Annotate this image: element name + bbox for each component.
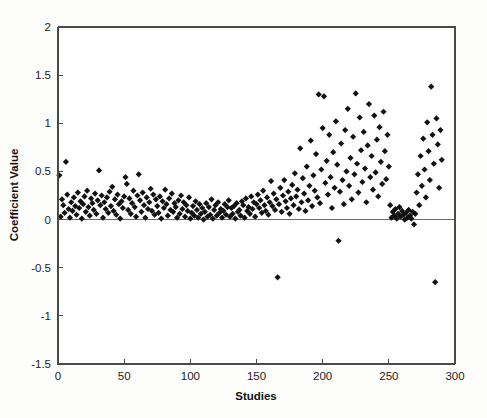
plot-canvas: 050100150200250300 -1.5-1-0.500.511.52 S… bbox=[0, 0, 487, 418]
y-tick-label: -0.5 bbox=[31, 262, 51, 274]
x-tick-label: 200 bbox=[313, 370, 332, 382]
x-tick-label: 250 bbox=[379, 370, 398, 382]
y-tick-label: 1 bbox=[45, 117, 51, 129]
y-tick-label: 0.5 bbox=[35, 165, 51, 177]
x-axis-title: Studies bbox=[235, 390, 277, 402]
y-tick-label: 1.5 bbox=[35, 69, 51, 81]
x-tick-label: 0 bbox=[55, 370, 61, 382]
y-tick-label: -1.5 bbox=[31, 358, 51, 370]
x-tick-label: 50 bbox=[118, 370, 131, 382]
x-tick-label: 100 bbox=[181, 370, 200, 382]
y-tick-label: 2 bbox=[45, 21, 51, 33]
y-tick-label: 0 bbox=[45, 214, 51, 226]
x-tick-label: 300 bbox=[445, 370, 464, 382]
scatter-chart-figure: 050100150200250300 -1.5-1-0.500.511.52 S… bbox=[0, 0, 487, 418]
x-tick-label: 150 bbox=[247, 370, 266, 382]
y-tick-label: -1 bbox=[41, 310, 51, 322]
y-axis-title: Coefficient Value bbox=[8, 149, 20, 242]
